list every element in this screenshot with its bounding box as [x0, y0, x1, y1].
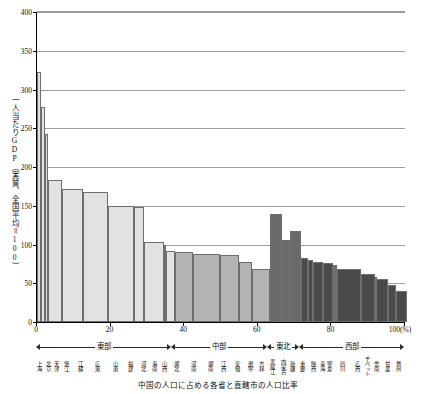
category-label: 浙江	[64, 354, 70, 378]
y-tick-mark	[33, 206, 36, 207]
category-label: 広東	[95, 354, 101, 378]
category-label: 遼寧	[248, 354, 254, 378]
category-label: 山西	[162, 354, 168, 378]
chart-caption: 中国の人口に占める各省と直轄市の人口比率	[0, 379, 436, 390]
category-label: 山東	[113, 354, 119, 378]
region-label: 中部	[210, 342, 228, 352]
y-tick-mark	[33, 51, 36, 52]
category-label: 吉林	[259, 354, 265, 378]
category-label: 貴州	[396, 354, 402, 378]
bar	[62, 189, 83, 322]
bar	[175, 252, 192, 322]
category-label: 江西	[221, 354, 227, 378]
bar	[396, 291, 407, 322]
category-label: 広西	[355, 354, 361, 378]
category-label: 河南	[191, 354, 197, 378]
region-marker: 東部	[36, 341, 171, 353]
x-tick-label: 20	[95, 325, 125, 334]
y-tick-label: 200	[8, 163, 32, 172]
bar	[83, 192, 107, 322]
category-label: 新疆	[290, 354, 296, 378]
category-label: 海南	[152, 354, 158, 378]
bars-group	[37, 12, 405, 322]
y-tick-label: 300	[8, 86, 32, 95]
x-tick-mark	[110, 323, 111, 326]
bar	[144, 242, 164, 322]
bar	[323, 263, 334, 322]
category-label: 寧夏	[327, 354, 333, 378]
region-marker: 中部	[171, 341, 267, 353]
category-label: 安徽	[235, 354, 241, 378]
category-labels: 上海北京天津浙江江蘇広東山東福建河北海南山西湖北河南湖南江西安徽遼寧吉林黒龍江内…	[36, 354, 404, 378]
y-tick-mark	[33, 167, 36, 168]
y-tick-mark	[33, 245, 36, 246]
category-label: 四川	[340, 354, 346, 378]
category-label: 黒龍江	[270, 354, 276, 378]
y-tick-mark	[33, 12, 36, 13]
bar	[388, 285, 395, 322]
x-tick-mark	[36, 323, 37, 326]
y-tick-mark	[33, 283, 36, 284]
x-tick-label: 40	[168, 325, 198, 334]
region-marker: 西部	[299, 341, 404, 353]
region-arrow-left-icon	[267, 344, 271, 350]
x-tick-label: 100(%)	[383, 325, 417, 334]
category-label: 青海	[320, 354, 326, 378]
bar	[166, 251, 176, 322]
category-label: 湖北	[174, 354, 180, 378]
category-label: 雲南	[374, 354, 380, 378]
y-tick-label: 250	[8, 124, 32, 133]
bar-chart: 一人当たりGDP（実質、全国平均＝100） 050100150200250300…	[0, 0, 436, 394]
bar	[193, 254, 221, 322]
category-label: 天津	[54, 354, 60, 378]
y-tick-label: 50	[8, 279, 32, 288]
bar	[108, 206, 134, 322]
bar	[220, 255, 239, 322]
x-tick-label: 80	[315, 325, 345, 334]
y-axis-title: 一人当たりGDP（実質、全国平均＝100）	[2, 88, 18, 278]
bar	[290, 231, 301, 322]
category-label: 湖南	[208, 354, 214, 378]
region-band: 東部中部東北西部	[36, 341, 404, 353]
category-label: 江蘇	[78, 354, 84, 378]
category-label: チベット	[365, 354, 371, 378]
bar	[301, 258, 308, 322]
region-arrow-left-icon	[299, 344, 303, 350]
y-tick-label: 350	[8, 47, 32, 56]
category-label: 北京	[46, 354, 52, 378]
bar	[239, 262, 251, 322]
bar	[270, 214, 282, 323]
bar	[134, 207, 144, 322]
bar	[337, 269, 362, 322]
x-tick-mark	[257, 323, 258, 326]
y-tick-mark	[33, 90, 36, 91]
plot-area	[36, 12, 405, 323]
bar	[376, 279, 389, 322]
bar	[361, 274, 375, 322]
y-tick-label: 100	[8, 241, 32, 250]
region-arrow-left-icon	[36, 344, 40, 350]
category-label: 陝西	[311, 354, 317, 378]
category-label: 甘粛	[385, 354, 391, 378]
category-label: 上海	[37, 354, 43, 378]
category-label: 重慶	[300, 354, 306, 378]
region-marker: 東北	[267, 341, 299, 353]
region-label: 東部	[95, 342, 113, 352]
x-tick-mark	[183, 323, 184, 326]
category-label: 河北	[141, 354, 147, 378]
y-tick-label: 400	[8, 8, 32, 17]
region-arrow-right-icon	[400, 344, 404, 350]
x-tick-label: 0	[21, 325, 51, 334]
bar	[313, 262, 322, 322]
x-tick-mark	[404, 323, 405, 326]
region-arrow-left-icon	[171, 344, 175, 350]
y-tick-label: 150	[8, 202, 32, 211]
y-tick-mark	[33, 128, 36, 129]
bar	[282, 240, 290, 322]
category-label: 内蒙古	[281, 354, 287, 378]
x-tick-mark	[330, 323, 331, 326]
category-label: 福建	[128, 354, 134, 378]
region-label: 西部	[343, 342, 361, 352]
bar	[48, 180, 62, 322]
bar	[252, 269, 270, 322]
